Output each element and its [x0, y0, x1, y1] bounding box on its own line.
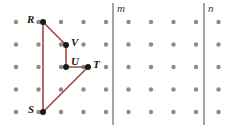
grid-dot — [14, 42, 18, 46]
grid-dot — [171, 20, 175, 24]
vertex-label-S: S — [28, 104, 34, 115]
grid-dot — [14, 65, 18, 69]
line-label-n: n — [208, 3, 214, 14]
grid-dot — [104, 87, 108, 91]
grid-dot — [36, 42, 40, 46]
grid-dot — [14, 87, 18, 91]
vertex-point-T — [85, 64, 91, 70]
vertex-label-R: R — [27, 14, 34, 25]
grid-dot — [81, 42, 85, 46]
grid-dot — [126, 87, 130, 91]
grid-dot — [126, 42, 130, 46]
grid-dot — [216, 42, 220, 46]
grid-dot — [216, 110, 220, 114]
grid-dot — [104, 110, 108, 114]
grid-dot — [194, 42, 198, 46]
vertex-label-T: T — [93, 59, 100, 70]
line-label-m: m — [117, 3, 125, 14]
grid-dot — [194, 110, 198, 114]
dot-grid — [14, 20, 221, 114]
vertex-label-V: V — [71, 37, 78, 48]
vertex-point-V — [63, 42, 69, 48]
segment-RV — [43, 22, 66, 45]
grid-dot — [14, 110, 18, 114]
grid-dot — [126, 20, 130, 24]
grid-dot — [171, 42, 175, 46]
grid-dot — [126, 65, 130, 69]
grid-dot — [171, 87, 175, 91]
vertex-point-S — [40, 109, 46, 115]
grid-dot — [126, 110, 130, 114]
figure-canvas — [0, 0, 250, 133]
grid-dot — [81, 110, 85, 114]
grid-dot — [171, 110, 175, 114]
grid-dot — [59, 110, 63, 114]
grid-dot — [149, 42, 153, 46]
grid-dot — [14, 20, 18, 24]
grid-dot — [104, 42, 108, 46]
grid-dot — [59, 65, 63, 69]
vertex-point-U — [63, 64, 69, 70]
grid-dot — [81, 87, 85, 91]
grid-dot — [216, 87, 220, 91]
grid-dot — [104, 20, 108, 24]
grid-dot — [81, 20, 85, 24]
grid-dot — [216, 20, 220, 24]
segment-TS — [43, 67, 88, 112]
grid-dot — [149, 65, 153, 69]
grid-dot — [149, 87, 153, 91]
vertex-label-U: U — [71, 56, 79, 67]
vertex-point-R — [40, 19, 46, 25]
grid-dot — [171, 65, 175, 69]
grid-dot — [149, 110, 153, 114]
grid-dot — [59, 42, 63, 46]
grid-dot — [59, 87, 63, 91]
grid-dot — [194, 87, 198, 91]
grid-dot — [36, 65, 40, 69]
geometry-figure: RVUTSmn — [0, 0, 250, 133]
grid-dot — [36, 87, 40, 91]
grid-dot — [216, 65, 220, 69]
grid-dot — [104, 65, 108, 69]
grid-dot — [59, 20, 63, 24]
grid-dot — [149, 20, 153, 24]
grid-dot — [194, 20, 198, 24]
grid-dot — [194, 65, 198, 69]
